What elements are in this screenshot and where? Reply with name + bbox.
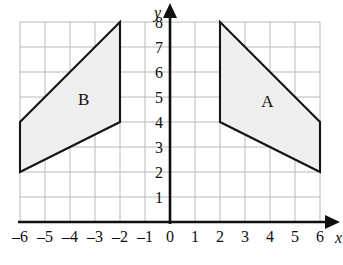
x-tick-label: –1 [136, 228, 153, 245]
x-tick-label: 1 [191, 228, 199, 245]
x-axis-name-label: x [334, 229, 342, 246]
y-axis-arrow-icon [163, 3, 177, 18]
x-tick-label: 2 [216, 228, 224, 245]
x-tick-label: –4 [61, 228, 78, 245]
x-tick-label: 4 [266, 228, 274, 245]
y-tick-label: 6 [155, 64, 163, 81]
y-tick-label: 1 [155, 189, 163, 206]
shape-label-a: A [261, 92, 274, 111]
y-tick-label: 2 [155, 164, 163, 181]
x-tick-label: 6 [316, 228, 324, 245]
y-tick-label: 7 [155, 39, 163, 56]
shape-label-b: B [78, 90, 89, 109]
x-tick-label: 0 [166, 228, 174, 245]
y-tick-label: 3 [155, 139, 163, 156]
y-tick-label: 4 [155, 114, 163, 131]
y-tick-label: 5 [155, 89, 163, 106]
x-tick-label: –2 [111, 228, 128, 245]
x-tick-label: –5 [36, 228, 53, 245]
x-tick-label: 5 [291, 228, 299, 245]
coordinate-plane-svg: –6–5–4–3–2–1012345612345678xyAB [0, 0, 343, 265]
x-tick-label: 3 [241, 228, 249, 245]
y-axis-name-label: y [152, 4, 162, 22]
x-tick-label: –3 [86, 228, 103, 245]
x-tick-label: –6 [11, 228, 28, 245]
x-axis-arrow-icon [325, 215, 340, 229]
coordinate-grid-figure: –6–5–4–3–2–1012345612345678xyAB [0, 0, 343, 265]
